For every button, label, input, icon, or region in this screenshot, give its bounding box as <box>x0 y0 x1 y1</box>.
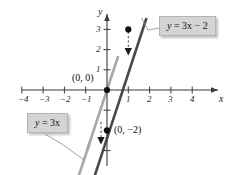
xtick-label-3: 3 <box>168 95 173 104</box>
xtick-label--1: −1 <box>81 95 92 104</box>
eq-upper-body: = 3x − 2 <box>171 20 207 31</box>
x-axis-label: x <box>219 94 223 104</box>
point-1-3 <box>125 26 131 32</box>
line-y-equals-3x-minus-2 <box>94 18 147 175</box>
y-axis-arrowhead <box>104 14 110 21</box>
graph-figure: −4 −3 −2 −1 1 2 3 4 3 2 1 y x (0, 0) (0,… <box>0 0 235 175</box>
ytick-label-3: 3 <box>96 25 101 34</box>
ytick-label-2: 2 <box>96 45 101 54</box>
shift-arrowhead-lower <box>97 137 104 145</box>
xtick-label-2: 2 <box>147 95 152 104</box>
x-axis-arrowhead <box>211 87 218 93</box>
equation-label-3x-minus-2: y = 3x − 2 <box>159 16 216 36</box>
xtick-label--3: −3 <box>39 95 50 104</box>
ytick-label-1: 1 <box>96 65 101 74</box>
shift-arrowhead-upper <box>125 48 132 56</box>
intercept-point-label: (0, −2) <box>114 125 141 135</box>
line-y-equals-3x-lower <box>78 142 90 175</box>
eq-lower-body: = 3x <box>39 117 60 128</box>
xtick-label--2: −2 <box>60 95 71 104</box>
leader-line-lower <box>45 134 84 160</box>
equation-label-3x: y = 3x <box>27 113 68 133</box>
xtick-label-4: 4 <box>190 95 195 104</box>
line-y-equals-3x <box>87 56 118 150</box>
xtick-label-1: 1 <box>126 95 131 104</box>
xtick-label--4: −4 <box>18 95 29 104</box>
y-axis-label: y <box>98 7 102 17</box>
origin-point-label: (0, 0) <box>72 73 94 83</box>
point-origin <box>104 87 110 93</box>
point-0-minus2 <box>104 127 110 133</box>
